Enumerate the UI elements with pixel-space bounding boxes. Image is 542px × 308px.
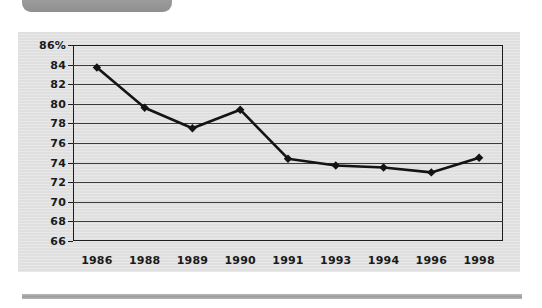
data-point-marker: [379, 163, 387, 171]
top-tab-banner: [22, 0, 172, 12]
y-axis-tick-label: 82: [50, 78, 66, 91]
y-axis-tick-label: 76: [50, 137, 66, 150]
x-axis-tick-label: 1990: [225, 254, 256, 267]
y-axis-tick-label: 74: [50, 156, 66, 169]
y-axis-tick-label: 86%: [39, 39, 66, 52]
chart-figure-panel: 86%84828078767472706866 1986198819891990…: [18, 32, 520, 272]
data-series-line: [73, 45, 503, 241]
y-tick-mark: [68, 241, 73, 242]
x-axis-tick-label: 1988: [129, 254, 160, 267]
data-point-marker: [427, 168, 435, 176]
x-axis-tick-label: 1998: [463, 254, 494, 267]
y-axis-tick-label: 78: [50, 117, 66, 130]
y-axis-tick-label: 70: [50, 195, 66, 208]
x-axis-tick-label: 1993: [320, 254, 351, 267]
y-axis-tick-label: 84: [50, 58, 66, 71]
x-axis-tick-label: 1991: [272, 254, 303, 267]
x-axis-tick-label: 1996: [416, 254, 447, 267]
y-axis-tick-label: 68: [50, 215, 66, 228]
line-chart-plot-area: 86%84828078767472706866 1986198819891990…: [73, 45, 503, 241]
y-axis-tick-label: 80: [50, 97, 66, 110]
y-axis-tick-label: 66: [50, 235, 66, 248]
bottom-divider-rule: [22, 294, 522, 299]
data-point-marker: [475, 154, 483, 162]
data-point-marker: [188, 124, 196, 132]
x-axis-tick-label: 1989: [177, 254, 208, 267]
y-axis-tick-label: 72: [50, 176, 66, 189]
x-axis-tick-label: 1986: [81, 254, 112, 267]
x-axis-tick-label: 1994: [368, 254, 399, 267]
data-point-marker: [332, 161, 340, 169]
